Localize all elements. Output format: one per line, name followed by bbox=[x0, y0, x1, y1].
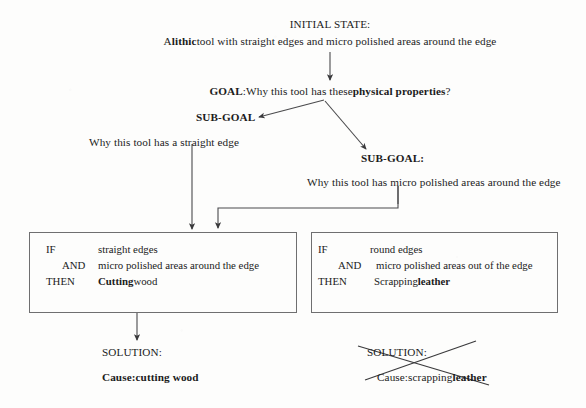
rule-right-if-label: IF bbox=[318, 243, 370, 255]
solution-right-cause-value: scrapping bbox=[408, 371, 452, 384]
rule-left-if-value: straight edges bbox=[98, 243, 158, 255]
solution-left-cause: Cause: cutting wood bbox=[102, 371, 199, 384]
rule-right-then-keyword: leather bbox=[418, 275, 450, 287]
solution-left-cause-value: cutting wood bbox=[136, 371, 199, 384]
connector-goal-to-subgoal-right bbox=[325, 101, 366, 149]
rule-right-and-value: micro polished areas out of the edge bbox=[376, 259, 533, 271]
solution-right-cause: Cause: scrapping leather bbox=[377, 371, 487, 384]
rule-right-if-line: IFround edges bbox=[318, 243, 422, 255]
rule-left-then-rest: wood bbox=[133, 275, 157, 287]
subgoal-left-text: Why this tool has a straight edge bbox=[89, 136, 239, 149]
initial-state-desc-rest: tool with straight edges and micro polis… bbox=[197, 35, 497, 48]
goal-label: GOAL bbox=[209, 85, 242, 98]
initial-state-label: INITIAL STATE: bbox=[290, 18, 371, 31]
rule-left-then-keyword: Cutting bbox=[98, 275, 133, 287]
initial-state-description: A lithic tool with straight edges and mi… bbox=[164, 35, 497, 48]
rule-right-then-label: THEN bbox=[318, 275, 374, 287]
rule-left-and-value: micro polished areas around the edge bbox=[98, 259, 259, 271]
rule-left-if-label: IF bbox=[46, 243, 98, 255]
diagram-canvas: INITIAL STATE: A lithic tool with straig… bbox=[0, 0, 586, 408]
goal-question-end: ? bbox=[445, 85, 450, 98]
rule-right-then-rest: Scrapping bbox=[374, 275, 418, 287]
solution-right-label: SOLUTION: bbox=[367, 346, 427, 359]
initial-state-desc-prefix: A bbox=[164, 35, 172, 48]
connector-goal-to-subgoal-left bbox=[259, 100, 324, 117]
rule-right-and-label: AND bbox=[318, 259, 376, 271]
rule-left-if-line: IFstraight edges bbox=[46, 243, 158, 255]
rule-box-left: IFstraight edges ANDmicro polished areas… bbox=[29, 232, 297, 313]
solution-right-cause-prefix: Cause: bbox=[377, 371, 408, 384]
rule-left-and-label: AND bbox=[46, 259, 98, 271]
rule-left-and-line: ANDmicro polished areas around the edge bbox=[46, 259, 259, 271]
connector-layer bbox=[0, 0, 586, 408]
rule-right-then-line: THENScrapping leather bbox=[318, 275, 450, 287]
rule-left-then-label: THEN bbox=[46, 275, 98, 287]
subgoal-right-label: SUB-GOAL: bbox=[361, 152, 424, 165]
scan-noise-overlay bbox=[0, 0, 586, 408]
rule-right-if-value: round edges bbox=[370, 243, 422, 255]
solution-left-cause-prefix: Cause: bbox=[102, 371, 136, 384]
goal-node: GOAL: Why this tool has these physical p… bbox=[209, 85, 450, 98]
goal-question-start: Why this tool has these bbox=[246, 85, 353, 98]
subgoal-right-text: Why this tool has micro polished areas a… bbox=[307, 176, 561, 189]
goal-question-keyword: physical properties bbox=[353, 85, 446, 98]
connector-subgoal-right-bracket bbox=[218, 186, 398, 228]
initial-state-desc-keyword: lithic bbox=[172, 35, 197, 48]
solution-right-cause-keyword: leather bbox=[452, 371, 486, 384]
solution-left-label: SOLUTION: bbox=[102, 346, 162, 359]
rule-left-then-line: THENCutting wood bbox=[46, 275, 157, 287]
subgoal-left-label: SUB-GOAL bbox=[196, 111, 255, 124]
rule-right-and-line: ANDmicro polished areas out of the edge bbox=[318, 259, 533, 271]
rule-box-right: IFround edges ANDmicro polished areas ou… bbox=[311, 232, 558, 313]
